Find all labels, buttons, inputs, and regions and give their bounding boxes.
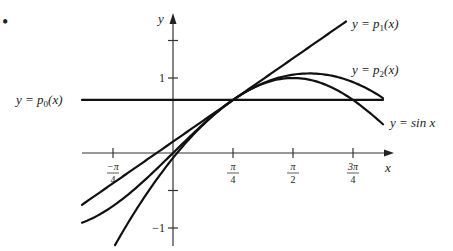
curve-p1 xyxy=(82,22,346,205)
bullet-marker: • xyxy=(2,12,8,32)
curves xyxy=(82,22,383,246)
x-tick-label-denominator: 4 xyxy=(351,174,356,185)
x-tick-label-numerator: π xyxy=(290,161,296,172)
x-tick-label-denominator: 2 xyxy=(291,174,296,185)
label-p0: y = p0(x) xyxy=(14,92,62,109)
x-tick-label-numerator: π xyxy=(230,161,236,172)
y-tick-label: −1 xyxy=(152,221,165,235)
x-axis-arrow-icon xyxy=(384,150,394,157)
label-sin: y = sin x xyxy=(388,115,435,130)
y-tick-label: 1 xyxy=(159,71,165,85)
x-tick-label-numerator: 3π xyxy=(347,161,359,172)
x-tick-label-numerator: −π xyxy=(107,161,120,172)
label-p2: y = p2(x) xyxy=(350,62,398,79)
ticks: −π4π4π23π41−1 xyxy=(107,41,359,236)
y-axis-label: y xyxy=(156,11,164,26)
axes: x y xyxy=(82,11,394,246)
label-p1: y = p1(x) xyxy=(350,16,398,33)
x-axis-label: x xyxy=(384,160,391,175)
x-tick-label-denominator: 4 xyxy=(231,174,236,185)
y-axis-arrow-icon xyxy=(170,13,177,24)
taylor-plot: • x y −π4π4π23π41−1 y = p0(x) y = p1(x) … xyxy=(0,0,453,251)
